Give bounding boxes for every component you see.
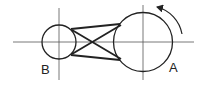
- label-pulley-a: A: [169, 60, 178, 75]
- label-pulley-b: B: [41, 62, 50, 77]
- pulley-diagram: B A: [0, 0, 201, 85]
